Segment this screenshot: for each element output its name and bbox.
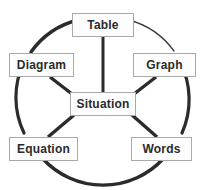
spoke-situation-words: [132, 115, 157, 137]
node-label-words: Words: [142, 143, 180, 155]
node-label-equation: Equation: [17, 143, 70, 155]
ring-arc-table-graph: [129, 20, 174, 51]
node-label-situation: Situation: [76, 98, 129, 110]
node-box-graph[interactable]: Graph: [133, 53, 196, 77]
node-label-diagram: Diagram: [17, 59, 66, 71]
spoke-situation-equation: [48, 115, 74, 137]
node-box-equation[interactable]: Equation: [9, 137, 78, 161]
node-box-situation[interactable]: Situation: [70, 92, 136, 116]
ring-arc-diagram-table: [31, 20, 78, 52]
node-box-words[interactable]: Words: [131, 137, 192, 161]
spoke-situation-diagram: [50, 77, 72, 94]
node-box-table[interactable]: Table: [72, 13, 134, 37]
spoke-group: [48, 37, 157, 137]
node-label-graph: Graph: [146, 59, 182, 71]
ring-arc-words-equation: [43, 159, 163, 185]
diagram-canvas: Table Diagram Graph Situation Equation W…: [0, 0, 207, 190]
node-label-table: Table: [87, 19, 118, 31]
node-box-diagram[interactable]: Diagram: [9, 53, 74, 77]
spoke-situation-graph: [134, 77, 156, 94]
